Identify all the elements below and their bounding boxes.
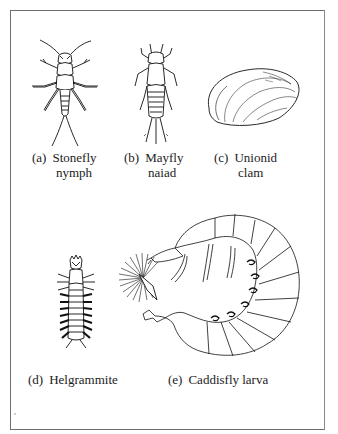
helgrammite-icon xyxy=(54,254,99,354)
caddisfly-larva-icon xyxy=(135,210,305,360)
label-c: (c)Unionid clam xyxy=(214,150,277,180)
unionid-clam-icon xyxy=(203,66,303,130)
label-e: (e)Caddisfly larva xyxy=(168,372,268,387)
label-d: (d)Helgrammite xyxy=(28,372,118,387)
label-a: (a)Stonefly nymph xyxy=(32,150,97,180)
scan-speck xyxy=(14,413,16,415)
label-b: (b)Mayfly naiad xyxy=(124,150,183,180)
mayfly-naiad-icon xyxy=(130,38,185,148)
stonefly-nymph-icon xyxy=(30,38,100,148)
